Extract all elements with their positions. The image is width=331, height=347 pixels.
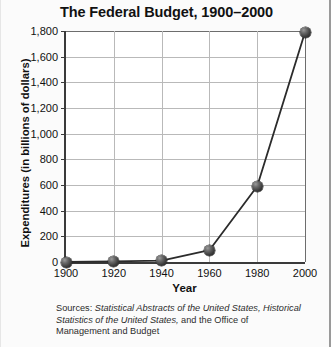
plot-area: 02004006008001,0001,2001,4001,6001,80019…	[64, 31, 305, 264]
x-axis-tick-label: 1920	[102, 267, 126, 279]
y-axis-tick-label: 1,200	[30, 102, 58, 114]
series-line	[66, 31, 305, 262]
x-axis-tick-label: 1940	[149, 267, 173, 279]
source-note: Sources: Statistical Abstracts of the Un…	[56, 303, 304, 338]
data-point-marker	[252, 181, 263, 192]
data-point-marker	[108, 256, 119, 267]
y-axis-tick-label: 1,800	[30, 25, 58, 37]
data-point-marker	[61, 257, 72, 268]
source-work-one: Statistical Abstracts of the United Stat…	[95, 303, 261, 313]
y-axis-tick-label: 800	[40, 153, 58, 165]
y-axis-tick-label: 600	[40, 179, 58, 191]
x-axis-tick-label: 1960	[197, 267, 221, 279]
plot-inner: 02004006008001,0001,2001,4001,6001,80019…	[66, 31, 305, 262]
x-axis-tick-label: 1980	[245, 267, 269, 279]
x-axis-tick-label: 1900	[54, 267, 78, 279]
x-axis-title: Year	[64, 282, 305, 294]
chart-figure: The Federal Budget, 1900–2000 Expenditur…	[0, 0, 331, 347]
data-point-marker	[156, 255, 167, 266]
y-axis-tick-label: 1,000	[30, 128, 58, 140]
x-axis-tick-label: 2000	[293, 267, 317, 279]
y-axis-tick-label: 1,600	[30, 51, 58, 63]
y-axis-tick-label: 400	[40, 205, 58, 217]
page-title: The Federal Budget, 1900–2000	[1, 4, 331, 20]
gridline-vertical	[305, 31, 306, 262]
data-point-marker	[204, 245, 215, 256]
data-point-marker	[300, 27, 311, 38]
source-prefix: Sources:	[56, 303, 95, 313]
y-axis-title: Expenditures (in billions of dollars)	[19, 33, 31, 273]
y-axis-tick-label: 200	[40, 230, 58, 242]
y-axis-tick-label: 1,400	[30, 76, 58, 88]
